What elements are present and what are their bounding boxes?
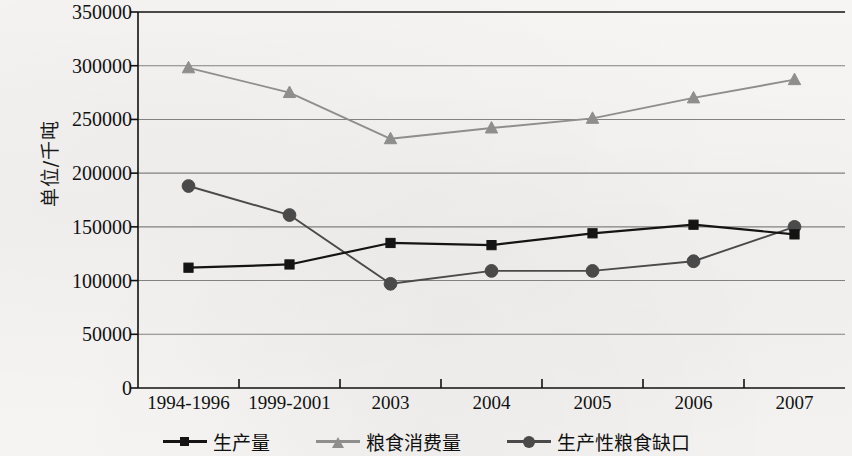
y-tick-label: 100000 — [72, 271, 132, 291]
square-marker — [184, 263, 193, 272]
series-triangle — [182, 61, 800, 143]
square-marker — [163, 435, 207, 449]
legend-label: 生产性粮食缺口 — [557, 428, 690, 455]
x-tick-label: 1994-1996 — [147, 392, 229, 414]
legend-item[interactable]: 生产性粮食缺口 — [507, 428, 690, 455]
y-tick-label: 350000 — [72, 2, 132, 22]
chart-legend: 生产量粮食消费量生产性粮食缺口 — [0, 428, 852, 455]
y-tick-label: 50000 — [82, 324, 132, 344]
legend-label: 粮食消费量 — [366, 428, 461, 455]
series-circle — [182, 180, 801, 291]
square-marker — [588, 229, 597, 238]
x-tick-label: 2005 — [574, 392, 612, 414]
x-tick-label: 2007 — [776, 392, 814, 414]
square-marker — [487, 241, 496, 250]
line-chart: 单位/千吨 0500001000001500002000002500003000… — [0, 0, 852, 456]
triangle-marker — [316, 435, 360, 449]
legend-item[interactable]: 粮食消费量 — [316, 428, 461, 455]
legend-square-marker — [180, 437, 189, 446]
circle-marker — [687, 255, 700, 268]
y-tick-label: 0 — [122, 378, 132, 398]
triangle-marker — [182, 61, 194, 72]
y-tick-label: 200000 — [72, 163, 132, 183]
y-axis-tick-labels: 0500001000001500002000002500003000003500… — [0, 0, 132, 456]
square-marker — [790, 230, 799, 239]
legend-circle-marker — [523, 436, 535, 448]
square-marker — [285, 260, 294, 269]
square-marker — [386, 238, 395, 247]
circle-marker — [485, 265, 498, 278]
circle-marker — [283, 209, 296, 222]
y-tick-label: 250000 — [72, 109, 132, 129]
circle-marker — [384, 277, 397, 290]
x-tick-label: 2004 — [473, 392, 511, 414]
x-tick-label: 1999-2001 — [248, 392, 330, 414]
circle-marker — [586, 265, 599, 278]
y-tick-label: 150000 — [72, 217, 132, 237]
x-tick-label: 2006 — [675, 392, 713, 414]
legend-item[interactable]: 生产量 — [163, 428, 270, 455]
legend-label: 生产量 — [213, 428, 270, 455]
circle-marker — [182, 180, 195, 193]
square-marker — [689, 220, 698, 229]
x-tick-label: 2003 — [372, 392, 410, 414]
legend-triangle-marker — [332, 437, 344, 448]
y-tick-label: 300000 — [72, 56, 132, 76]
triangle-marker — [788, 73, 800, 84]
circle-marker — [507, 435, 551, 449]
